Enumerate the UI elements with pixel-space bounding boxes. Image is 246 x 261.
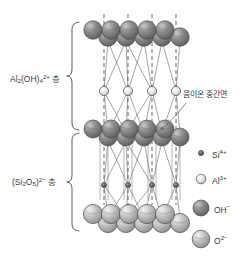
- layer-braces: [67, 22, 79, 231]
- layer-word-si: 층: [48, 177, 56, 187]
- ion-sphere: [99, 86, 108, 95]
- legend-symbols: [192, 150, 210, 247]
- bottom-oxygen-layer: [83, 204, 189, 232]
- legend-swatch-al-ion: [196, 174, 206, 184]
- annotation-anion-interlayer-plane: 음이온 중간면: [183, 88, 227, 99]
- legend-label-o: O2−: [214, 234, 228, 246]
- ion-sphere: [101, 182, 106, 187]
- ion-sphere: [147, 86, 156, 95]
- ion-sphere: [171, 86, 180, 95]
- aluminium-plane: [99, 86, 180, 95]
- legend-label-al: Al3+: [212, 174, 227, 186]
- silicon-plane: [101, 182, 178, 187]
- figure-canvas: Al2(OH)42+ 층 (Si2O5)2− 층 음이온 중간면 Si4+ Al…: [0, 0, 246, 261]
- ion-spheres: [83, 21, 189, 233]
- ion-sphere: [123, 86, 132, 95]
- layer-word-al: 층: [52, 74, 60, 84]
- layer-label-silicate: (Si2O5)2− 층: [12, 175, 56, 187]
- brace-lower: [67, 133, 79, 231]
- ion-sphere: [173, 182, 178, 187]
- brace-upper: [67, 22, 79, 130]
- legend-label-si: Si4+: [212, 148, 227, 160]
- layer-label-al-hydroxide: Al2(OH)42+ 층: [10, 72, 60, 84]
- crystal-structure-diagram: [0, 0, 246, 261]
- legend-swatch-si-ion: [198, 150, 203, 155]
- ion-sphere: [149, 182, 154, 187]
- ion-sphere: [125, 182, 130, 187]
- legend-label-oh: OH−: [214, 203, 230, 215]
- top-hydroxyl-layer: [84, 21, 189, 46]
